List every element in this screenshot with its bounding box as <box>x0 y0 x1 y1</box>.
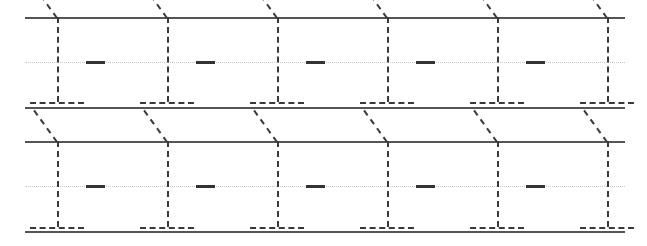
stroke-stem <box>607 141 609 227</box>
practice-row-2 <box>0 0 647 246</box>
stroke-diagonal-flag <box>583 110 608 143</box>
handwriting-worksheet <box>0 0 647 246</box>
stroke-base-serif <box>580 227 634 229</box>
trace-glyph-1-6 <box>0 0 647 246</box>
